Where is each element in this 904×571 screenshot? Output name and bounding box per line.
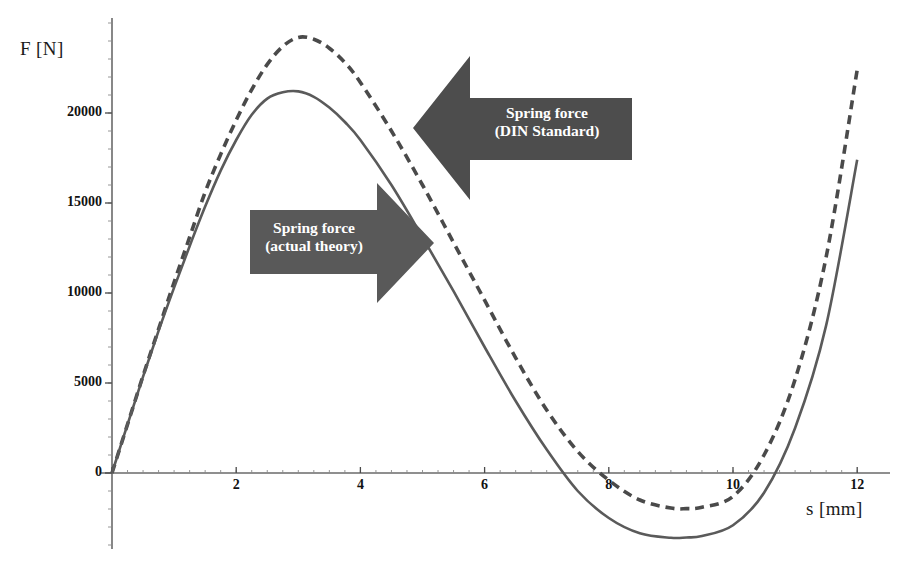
x-axis-label: s [mm]	[806, 498, 863, 520]
din-standard-callout-line-2: (DIN Standard)	[468, 122, 626, 140]
actual-theory-callout-line-1: Spring force	[250, 219, 378, 237]
x-tick-label: 10	[713, 477, 753, 493]
x-tick-label: 2	[216, 477, 256, 493]
y-tick-label: 0	[24, 464, 102, 480]
actual-theory-callout-line-2: (actual theory)	[250, 237, 378, 255]
y-tick-label: 5000	[24, 374, 102, 390]
din-standard-callout: Spring force(DIN Standard)	[468, 104, 626, 141]
y-tick-label: 10000	[24, 284, 102, 300]
y-tick-label: 15000	[24, 194, 102, 210]
plot-area	[0, 0, 904, 571]
x-tick-label: 6	[465, 477, 505, 493]
din-standard-callout-line-1: Spring force	[468, 104, 626, 122]
axes	[100, 18, 890, 549]
spring-force-chart: F [N] s [mm] 246810120500010000150002000…	[0, 0, 904, 571]
actual-theory-callout: Spring force(actual theory)	[250, 219, 378, 256]
x-tick-label: 8	[589, 477, 629, 493]
y-axis-label: F [N]	[20, 38, 64, 60]
x-tick-label: 12	[837, 477, 877, 493]
y-tick-label: 20000	[24, 104, 102, 120]
x-tick-label: 4	[340, 477, 380, 493]
